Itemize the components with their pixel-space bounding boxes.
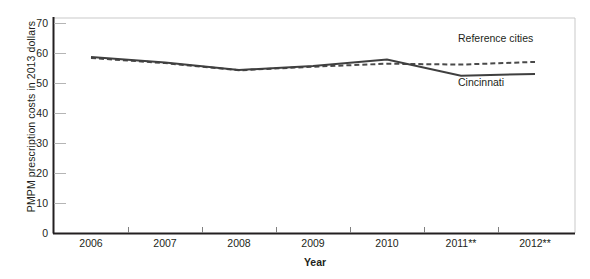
plot-area <box>0 0 590 279</box>
x-tick-marks <box>129 227 499 233</box>
y-tick-marks <box>54 24 66 204</box>
series-line-reference-cities <box>91 58 535 70</box>
series-line-cincinnati <box>91 57 535 76</box>
plot-frame <box>53 18 575 233</box>
chart-figure: PMPM prescription costs in 2013 dollars … <box>0 0 590 279</box>
